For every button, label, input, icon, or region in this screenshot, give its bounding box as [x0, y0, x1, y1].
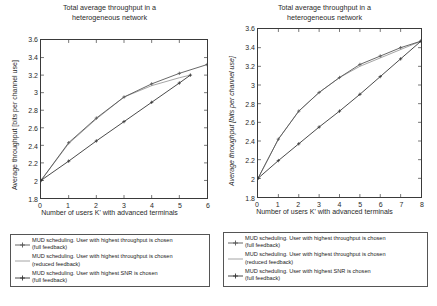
y-tick-label: 1.8 — [28, 196, 38, 203]
left-plot-canvas — [41, 40, 207, 198]
left-legend: MUD scheduling. User with highest throug… — [10, 234, 210, 287]
x-tick-label: 8 — [420, 201, 424, 208]
legend-item-label-line2: (reduced feedback) — [245, 259, 386, 266]
left-plot-title: Total average throughput in a heterogene… — [2, 3, 217, 22]
right-plot-title: Total average throughput in a heterogene… — [217, 3, 432, 22]
y-tick-label: 1.8 — [245, 195, 255, 202]
legend-item-label-line2: (full feedback) — [245, 275, 371, 282]
y-tick-label: 3.2 — [245, 62, 255, 69]
left-plot-axes — [40, 39, 208, 199]
legend-item: MUD scheduling. User with highest throug… — [224, 251, 427, 265]
figure-page: Total average throughput in a heterogene… — [0, 0, 437, 306]
legend-line-icon — [14, 255, 31, 267]
x-tick-label: 6 — [379, 201, 383, 208]
left-plot-title-line1: Total average throughput in a — [2, 3, 217, 13]
legend-item-label-line2: (full feedback) — [245, 242, 386, 249]
y-tick-label: 2.4 — [245, 138, 255, 145]
x-tick-label: 1 — [66, 202, 70, 209]
left-plot-title-line2: heterogeneous network — [2, 13, 217, 23]
legend-item-label-line1: MUD scheduling. User with highest throug… — [245, 235, 386, 242]
legend-plus-line-icon — [14, 272, 31, 284]
legend-plus-line-icon — [227, 270, 244, 282]
y-tick-label: 2 — [34, 178, 38, 185]
x-tick-label: 4 — [150, 202, 154, 209]
x-tick-label: 6 — [206, 202, 210, 209]
y-tick-label: 2.2 — [245, 157, 255, 164]
right-x-axis-label: Number of users K' with advanced termina… — [217, 208, 432, 215]
y-tick-label: 3.2 — [28, 71, 38, 78]
legend-plus-line-icon — [14, 239, 31, 251]
y-tick-label: 3 — [251, 81, 255, 88]
left-y-tick-labels: 1.822.22.42.62.833.23.43.6 — [4, 39, 38, 199]
legend-item: MUD scheduling. User with highest throug… — [11, 237, 209, 251]
x-tick-label: 5 — [358, 201, 362, 208]
x-tick-label: 2 — [94, 202, 98, 209]
y-tick-label: 2.8 — [245, 100, 255, 107]
legend-item-label: MUD scheduling. User with highest SNR is… — [244, 268, 371, 282]
right-legend: MUD scheduling. User with highest throug… — [223, 232, 428, 287]
x-tick-label: 5 — [178, 202, 182, 209]
legend-item: MUD scheduling. User with highest throug… — [11, 253, 209, 267]
legend-item-label-line1: MUD scheduling. User with highest SNR is… — [32, 270, 158, 277]
legend-item-label-line2: (full feedback) — [32, 244, 173, 251]
x-tick-label: 2 — [296, 201, 300, 208]
legend-item-label-line2: (full feedback) — [32, 277, 158, 284]
legend-item-label: MUD scheduling. User with highest SNR is… — [31, 270, 158, 284]
left-y-axis-label: Average throughput [bits per channel use… — [11, 60, 18, 190]
legend-item-label: MUD scheduling. User with highest throug… — [31, 253, 173, 267]
legend-item-label: MUD scheduling. User with highest throug… — [31, 237, 173, 251]
right-plot-title-line1: Total average throughput in a — [217, 3, 432, 13]
left-x-axis-label: Number of users K' with advanced termina… — [2, 209, 217, 216]
y-tick-label: 2.6 — [28, 124, 38, 131]
legend-item-label-line1: MUD scheduling. User with highest SNR is… — [245, 268, 371, 275]
y-tick-label: 2 — [251, 176, 255, 183]
right-figure-panel: Total average throughput in a heterogene… — [217, 0, 432, 306]
legend-item-label-line1: MUD scheduling. User with highest throug… — [245, 251, 386, 258]
legend-plus-line-icon — [227, 237, 244, 249]
left-figure-panel: Total average throughput in a heterogene… — [2, 0, 217, 306]
series-line — [41, 75, 190, 180]
x-tick-label: 1 — [276, 201, 280, 208]
y-tick-label: 2.4 — [28, 142, 38, 149]
legend-item-label: MUD scheduling. User with highest throug… — [244, 235, 386, 249]
legend-line-icon — [227, 253, 244, 265]
data-point-marker — [205, 63, 207, 66]
legend-item-label-line2: (reduced feedback) — [32, 261, 173, 268]
y-tick-label: 3.6 — [28, 36, 38, 43]
legend-item: MUD scheduling. User with highest throug… — [224, 235, 427, 249]
x-tick-label: 3 — [317, 201, 321, 208]
y-tick-label: 3.4 — [28, 53, 38, 60]
legend-item-label: MUD scheduling. User with highest throug… — [244, 251, 386, 265]
data-point-marker — [178, 72, 181, 75]
y-tick-label: 2.8 — [28, 107, 38, 114]
y-tick-label: 3 — [34, 89, 38, 96]
y-tick-label: 2.6 — [245, 119, 255, 126]
right-plot-title-line2: heterogeneous network — [217, 13, 432, 23]
legend-item-label-line1: MUD scheduling. User with highest throug… — [32, 253, 173, 260]
x-tick-label: 7 — [399, 201, 403, 208]
right-y-axis-label: Average throughput [bits per channel use… — [228, 56, 235, 186]
y-tick-label: 3.4 — [245, 43, 255, 50]
legend-item-label-line1: MUD scheduling. User with highest throug… — [32, 237, 173, 244]
right-plot-axes — [257, 28, 422, 198]
x-tick-label: 4 — [338, 201, 342, 208]
x-tick-label: 0 — [38, 202, 42, 209]
x-tick-label: 0 — [255, 201, 259, 208]
legend-item: MUD scheduling. User with highest SNR is… — [224, 268, 427, 282]
right-y-tick-labels: 1.822.22.42.62.833.23.43.6 — [221, 28, 255, 198]
legend-item: MUD scheduling. User with highest SNR is… — [11, 270, 209, 284]
right-plot-canvas — [258, 29, 421, 197]
y-tick-label: 2.2 — [28, 160, 38, 167]
y-tick-label: 3.6 — [245, 25, 255, 32]
x-tick-label: 3 — [122, 202, 126, 209]
